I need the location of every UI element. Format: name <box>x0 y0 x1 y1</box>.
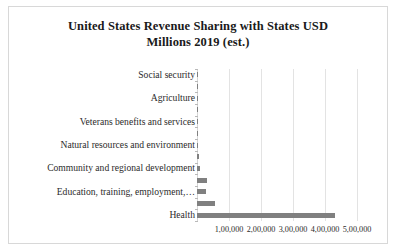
bar <box>197 143 198 148</box>
x-tick-label: 3,00,000 <box>279 225 308 235</box>
chart-container: United States Revenue Sharing with State… <box>8 6 388 244</box>
x-tick-label: 1,00,000 <box>215 225 244 235</box>
category-label: Social security <box>138 70 195 80</box>
x-tick-label: 5,00,000 <box>343 225 372 235</box>
category-label: Health <box>169 210 195 220</box>
x-tick-label: 2,00,000 <box>247 225 276 235</box>
x-axis-tick-labels: 1,00,0002,00,0003,00,0004,00,0005,00,000 <box>9 225 388 239</box>
bar <box>197 119 198 124</box>
category-label: Agriculture <box>151 93 195 103</box>
bar <box>197 213 335 218</box>
chart-title: United States Revenue Sharing with State… <box>9 18 387 50</box>
category-label: Education, training, employment,… <box>57 187 195 197</box>
bar <box>197 84 198 89</box>
bar <box>197 166 200 171</box>
bar <box>197 107 198 112</box>
bar <box>197 72 198 77</box>
category-axis-labels: Social securityAgricultureVeterans benef… <box>9 69 195 221</box>
bar <box>197 131 198 136</box>
bar <box>197 154 199 159</box>
x-tick-label: 4,00,000 <box>311 225 340 235</box>
bar <box>197 178 207 183</box>
bar <box>197 96 198 101</box>
chart-title-line-2: Millions 2019 (est.) <box>9 34 387 50</box>
category-tickmark <box>195 221 198 222</box>
bar <box>197 189 206 194</box>
category-label: Natural resources and environment <box>60 140 195 150</box>
chart-title-line-1: United States Revenue Sharing with State… <box>9 18 387 34</box>
category-label: Veterans benefits and services <box>80 117 195 127</box>
category-label: Community and regional development <box>47 163 195 173</box>
bar <box>197 201 215 206</box>
